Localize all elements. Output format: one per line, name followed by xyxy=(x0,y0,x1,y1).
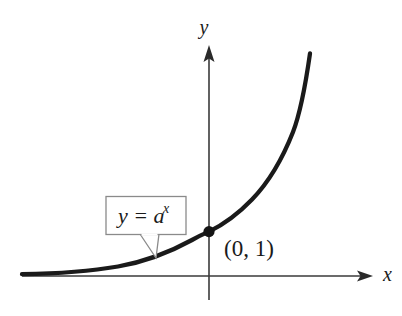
y-axis-label: y xyxy=(198,16,209,39)
callout-equation-base: y = a xyxy=(116,203,165,228)
callout-equation-exponent: x xyxy=(162,201,170,216)
y-intercept-label: (0, 1) xyxy=(224,236,274,261)
graph-canvas: y x (0, 1) y = a x xyxy=(0,0,402,316)
axes-group xyxy=(22,45,373,300)
y-intercept-point-marker xyxy=(203,226,214,237)
exponential-function-figure: y x (0, 1) y = a x xyxy=(0,0,402,316)
x-axis-label: x xyxy=(382,263,392,285)
callout-tail xyxy=(140,234,159,258)
